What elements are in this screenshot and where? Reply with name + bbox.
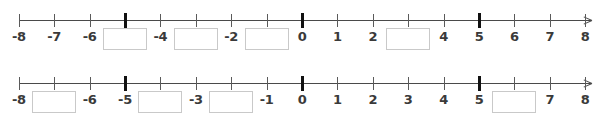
tick-mark — [337, 77, 338, 90]
tick-label: 6 — [494, 29, 534, 45]
major-tick-mark — [478, 76, 481, 91]
tick-label: 3 — [388, 92, 428, 108]
tick-label: 7 — [530, 29, 570, 45]
major-tick-mark — [301, 76, 304, 91]
tick-mark — [54, 77, 55, 90]
tick-mark — [19, 77, 20, 90]
tick-mark — [90, 77, 91, 90]
worksheet: -8-7-6-4-201245678 -8-6-5-3-101234578 — [0, 0, 614, 121]
tick-mark — [444, 14, 445, 27]
tick-mark — [267, 14, 268, 27]
tick-mark — [196, 77, 197, 90]
number-line-2: -8-6-5-3-101234578 — [0, 63, 614, 121]
tick-mark — [54, 14, 55, 27]
tick-mark — [550, 77, 551, 90]
tick-label: -1 — [247, 92, 287, 108]
axis-line — [19, 20, 591, 21]
tick-label: 8 — [565, 92, 605, 108]
tick-mark — [196, 14, 197, 27]
major-tick-mark — [124, 13, 127, 28]
major-tick-mark — [124, 76, 127, 91]
major-tick-mark — [301, 13, 304, 28]
tick-mark — [337, 14, 338, 27]
tick-label: 1 — [317, 29, 357, 45]
tick-label: 5 — [459, 29, 499, 45]
tick-mark — [19, 14, 20, 27]
axis-line — [19, 83, 591, 84]
major-tick-mark — [478, 13, 481, 28]
tick-mark — [373, 14, 374, 27]
tick-mark — [160, 77, 161, 90]
tick-label: -8 — [0, 29, 39, 45]
tick-mark — [514, 14, 515, 27]
tick-label: 4 — [424, 92, 464, 108]
tick-mark — [231, 77, 232, 90]
tick-mark — [585, 14, 586, 27]
tick-mark — [408, 14, 409, 27]
tick-label: 4 — [424, 29, 464, 45]
tick-label: -6 — [70, 92, 110, 108]
tick-mark — [373, 77, 374, 90]
tick-mark — [514, 77, 515, 90]
tick-label: 1 — [317, 92, 357, 108]
tick-label: 8 — [565, 29, 605, 45]
tick-mark — [408, 77, 409, 90]
tick-mark — [231, 14, 232, 27]
tick-mark — [444, 77, 445, 90]
tick-mark — [160, 14, 161, 27]
tick-mark — [90, 14, 91, 27]
tick-label: 0 — [282, 29, 322, 45]
number-line-1: -8-7-6-4-201245678 — [0, 0, 614, 58]
tick-label: -7 — [34, 29, 74, 45]
tick-label: 7 — [530, 92, 570, 108]
tick-mark — [585, 77, 586, 90]
tick-label: 2 — [353, 92, 393, 108]
tick-mark — [550, 14, 551, 27]
tick-label: 0 — [282, 92, 322, 108]
tick-mark — [267, 77, 268, 90]
